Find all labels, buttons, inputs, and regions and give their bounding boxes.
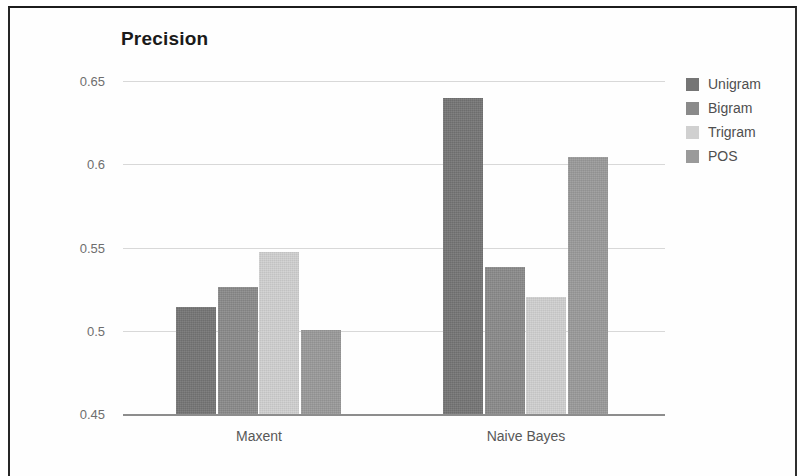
bar-maxent-pos (301, 330, 341, 414)
y-axis-tick-label: 0.55 (80, 240, 105, 255)
bar-maxent-trigram (259, 252, 299, 414)
y-axis-tick-label: 0.65 (80, 74, 105, 89)
bar-naive-bayes-bigram (485, 267, 525, 414)
legend-item-bigram[interactable]: Bigram (686, 96, 761, 120)
y-axis-tick-label: 0.6 (87, 157, 105, 172)
legend-item-label: Bigram (708, 100, 752, 116)
bar-maxent-bigram (218, 287, 258, 414)
legend-item-unigram[interactable]: Unigram (686, 72, 761, 96)
legend-swatch-icon (686, 78, 699, 91)
legend-swatch-icon (686, 126, 699, 139)
chart-title: Precision (121, 28, 208, 50)
legend-item-label: POS (708, 148, 738, 164)
legend-swatch-icon (686, 102, 699, 115)
bar-naive-bayes-trigram (526, 297, 566, 414)
y-axis-tick-labels: 0.650.60.550.50.45 (0, 0, 105, 472)
legend-item-label: Trigram (708, 124, 756, 140)
x-axis-line (123, 414, 665, 416)
legend-item-trigram[interactable]: Trigram (686, 120, 761, 144)
x-axis-tick-label: Maxent (236, 428, 282, 444)
plot-area (123, 81, 665, 414)
bar-naive-bayes-unigram (443, 98, 483, 414)
legend-item-pos[interactable]: POS (686, 144, 761, 168)
x-axis-tick-label: Naive Bayes (487, 428, 566, 444)
y-axis-tick-label: 0.45 (80, 407, 105, 422)
bar-naive-bayes-pos (568, 157, 608, 414)
chart-legend: UnigramBigramTrigramPOS (686, 72, 761, 168)
legend-swatch-icon (686, 150, 699, 163)
y-axis-tick-label: 0.5 (87, 323, 105, 338)
legend-item-label: Unigram (708, 76, 761, 92)
bar-maxent-unigram (176, 307, 216, 414)
gridline (123, 81, 665, 82)
